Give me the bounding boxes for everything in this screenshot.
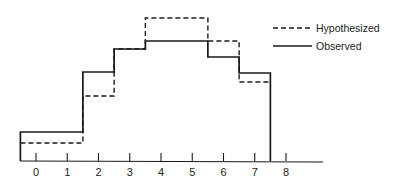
series-observed	[20, 41, 270, 161]
x-tick-label: 4	[158, 166, 164, 178]
x-tick-label: 2	[95, 166, 101, 178]
hypothesized-step-line	[20, 18, 270, 143]
series-hypothesized	[20, 18, 270, 143]
observed-step-line	[20, 41, 270, 161]
legend-label-hypothesized: Hypothesized	[316, 22, 380, 34]
x-tick-label: 6	[220, 166, 226, 178]
x-tick-label: 8	[283, 166, 289, 178]
step-histogram-chart: 012345678 Hypothesized Observed	[0, 0, 395, 184]
legend: Hypothesized Observed	[273, 22, 380, 52]
x-tick-label: 7	[252, 166, 258, 178]
x-tick-label: 3	[127, 166, 133, 178]
x-axis: 012345678	[20, 153, 323, 178]
x-axis-line	[20, 161, 323, 162]
x-tick-label: 5	[189, 166, 195, 178]
x-tick-label: 1	[64, 166, 70, 178]
legend-label-observed: Observed	[316, 40, 362, 52]
x-tick-label: 0	[33, 166, 39, 178]
